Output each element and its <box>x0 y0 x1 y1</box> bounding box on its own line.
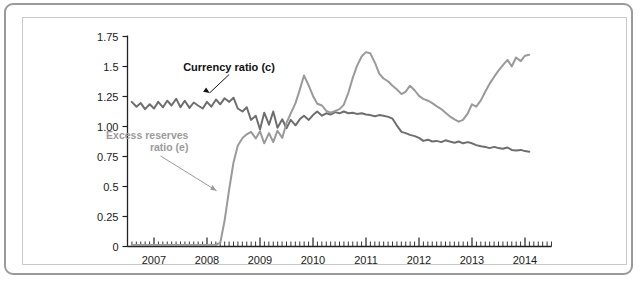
x-axis-tick-label: 2014 <box>513 254 537 266</box>
line-chart: 00.250.50.751.001.251.51.752007200820092… <box>0 0 641 283</box>
excess-reserves-label-line1: Excess reserves <box>106 129 188 141</box>
series-line-c <box>132 98 530 152</box>
excess-reserves-arrowhead <box>210 185 216 191</box>
currency-ratio-arrowhead <box>203 87 210 93</box>
excess-reserves-label-line2: ratio (e) <box>150 141 189 153</box>
excess-reserves-leader-line <box>160 156 216 191</box>
y-axis-tick-label: 0.75 <box>97 151 118 163</box>
currency-ratio-leader-line <box>210 75 230 93</box>
x-axis-tick-label: 2007 <box>142 254 166 266</box>
x-axis-tick-label: 2011 <box>354 254 378 266</box>
x-axis-tick-label: 2009 <box>248 254 272 266</box>
x-axis-tick-label: 2013 <box>460 254 484 266</box>
y-axis-tick-label: 0.25 <box>97 211 118 223</box>
x-axis-tick-label: 2012 <box>407 254 431 266</box>
y-axis-tick-label: 0 <box>112 241 118 253</box>
y-axis-tick-label: 1.25 <box>97 91 118 103</box>
y-axis-tick-label: 0.5 <box>103 181 118 193</box>
y-axis-tick-label: 1.75 <box>97 31 118 43</box>
currency-ratio-label: Currency ratio (c) <box>183 61 275 73</box>
series-line-e <box>132 52 530 245</box>
x-axis-tick-label: 2008 <box>195 254 219 266</box>
chart-plot-area: 00.250.50.751.001.251.51.752007200820092… <box>0 0 641 283</box>
x-axis-tick-label: 2010 <box>301 254 325 266</box>
y-axis-tick-label: 1.5 <box>103 61 118 73</box>
